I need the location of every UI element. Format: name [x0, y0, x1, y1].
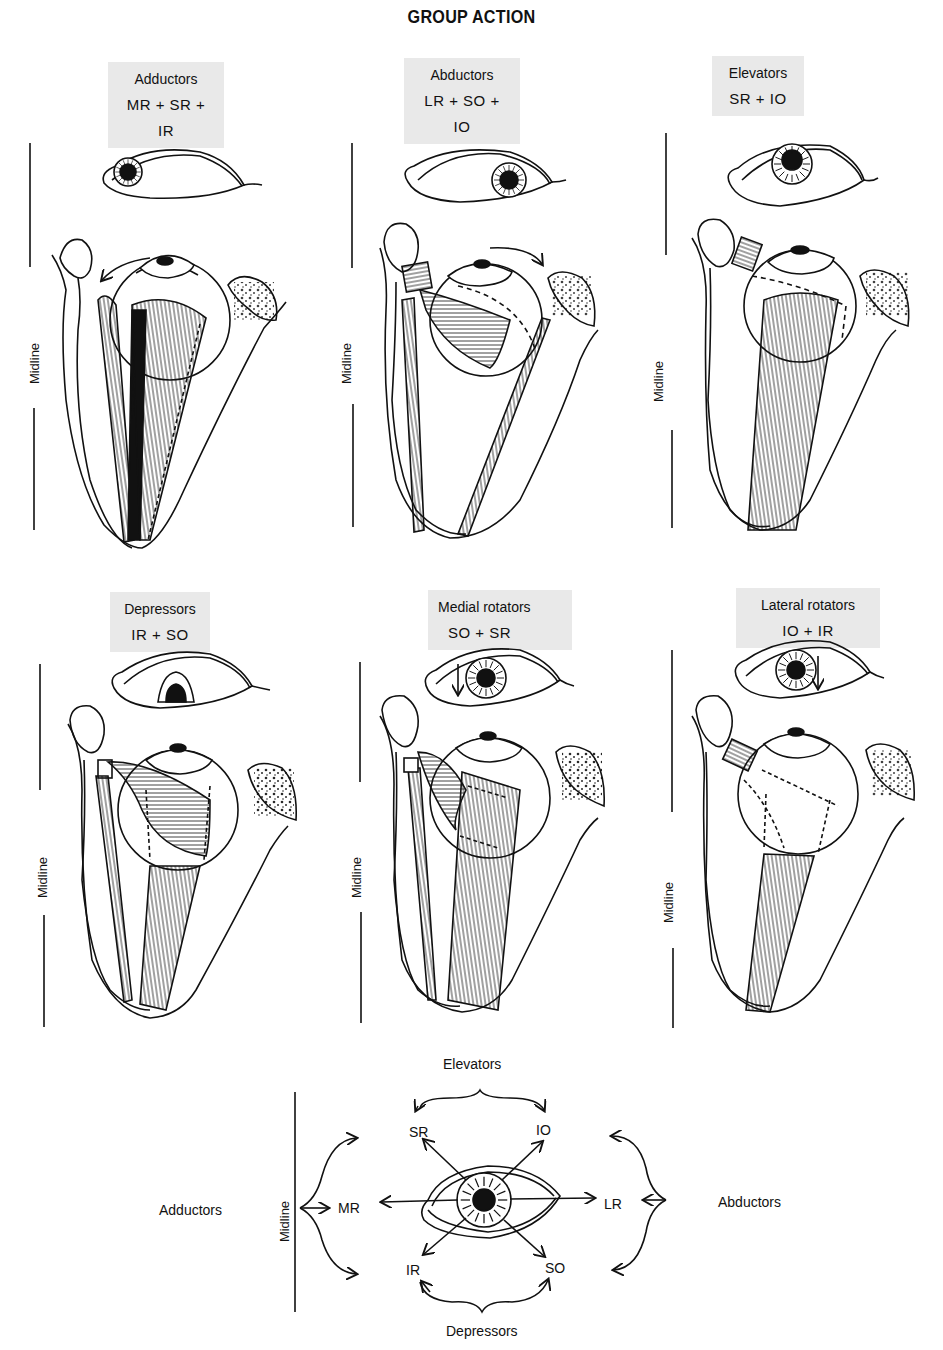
panel-abductors	[380, 150, 598, 538]
panel-medial-rotators	[380, 649, 604, 1012]
muscle-label-sr: SR	[409, 1124, 428, 1140]
summary-midline-label: Midline	[277, 1201, 292, 1242]
panel-elevators	[692, 144, 909, 530]
muscle-label-ir: IR	[406, 1262, 420, 1278]
panel-lateral-rotators	[692, 641, 914, 1012]
panel-depressors	[68, 652, 296, 1018]
muscle-label-so: SO	[545, 1260, 565, 1276]
muscle-label-mr: MR	[338, 1200, 360, 1216]
summary-abductors-label: Abductors	[718, 1194, 781, 1210]
anatomy-illustrations	[0, 0, 943, 1350]
summary-depressors-label: Depressors	[446, 1323, 518, 1339]
muscle-label-io: IO	[536, 1122, 551, 1138]
panel-adductors	[52, 150, 286, 548]
muscle-label-lr: LR	[604, 1196, 622, 1212]
summary-elevators-label: Elevators	[443, 1056, 501, 1072]
midline-lines	[30, 133, 673, 1028]
summary-adductors-label: Adductors	[159, 1202, 222, 1218]
